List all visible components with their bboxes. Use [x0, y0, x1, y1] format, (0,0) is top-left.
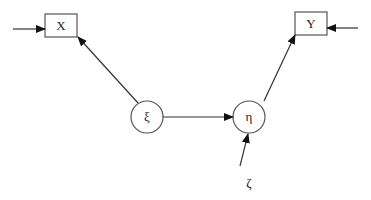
node-x-label: X: [56, 18, 66, 33]
edge-zeta-to-eta: [240, 134, 248, 166]
node-zeta-label: ζ: [246, 175, 252, 190]
node-xi-label: ξ: [144, 109, 150, 124]
node-y: Y: [295, 12, 327, 35]
edge-eta-to-y: [264, 35, 295, 101]
edge-xi-to-x: [78, 37, 138, 103]
node-eta: η: [233, 101, 265, 133]
node-xi: ξ: [131, 101, 163, 133]
node-eta-label: η: [246, 109, 253, 124]
path-diagram: X Y ξ η ζ: [0, 0, 371, 200]
node-y-label: Y: [306, 16, 316, 31]
node-x: X: [45, 14, 77, 37]
